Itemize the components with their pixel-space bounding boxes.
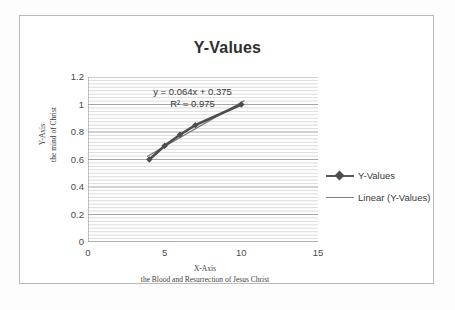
- x-axis-tick-labels: 051015: [88, 247, 318, 261]
- trendline-equation: y = 0.064x + 0.375 R² = 0.975: [120, 86, 265, 110]
- y-axis-tick-label: 0: [54, 237, 84, 247]
- legend-line-icon: [325, 191, 355, 203]
- legend-marker-diamond-icon: [325, 169, 355, 181]
- chart-frame: Y-Values Y-Axis the mind of Christ 00.20…: [19, 15, 434, 284]
- trendline-equation-line: y = 0.064x + 0.375: [120, 86, 265, 98]
- chart-legend: Y-Values Linear (Y-Values): [325, 164, 445, 208]
- r-squared-line: R² = 0.975: [120, 98, 265, 110]
- x-axis-tick-label: 5: [150, 247, 180, 258]
- y-axis-title-line1: Y-Axis: [38, 85, 49, 185]
- legend-item-linear-trendline: Linear (Y-Values): [325, 186, 445, 208]
- y-axis-tick-label: 1: [54, 100, 84, 110]
- chart-title: Y-Values: [20, 39, 435, 57]
- y-axis-tick-label: 1.2: [54, 72, 84, 82]
- x-axis-tick-label: 15: [303, 247, 333, 258]
- legend-item-y-values: Y-Values: [325, 164, 445, 186]
- legend-label: Y-Values: [355, 170, 395, 181]
- legend-label: Linear (Y-Values): [355, 192, 430, 203]
- x-axis-title-line1: X-Axis: [70, 264, 340, 275]
- y-axis-tick-labels: 00.20.40.60.811.2: [50, 77, 84, 242]
- y-axis-tick-label: 0.4: [54, 182, 84, 192]
- chart-screenshot: Y-Values Y-Axis the mind of Christ 00.20…: [0, 0, 455, 310]
- y-axis-tick-label: 0.2: [54, 210, 84, 220]
- y-axis-tick-label: 0.6: [54, 155, 84, 165]
- x-axis-tick-label: 0: [73, 247, 103, 258]
- x-axis-title-line2: the Blood and Resurrection of Jesus Chri…: [70, 275, 340, 286]
- y-axis-tick-label: 0.8: [54, 127, 84, 137]
- x-axis-title: X-Axis the Blood and Resurrection of Jes…: [70, 264, 340, 285]
- x-axis-tick-label: 10: [226, 247, 256, 258]
